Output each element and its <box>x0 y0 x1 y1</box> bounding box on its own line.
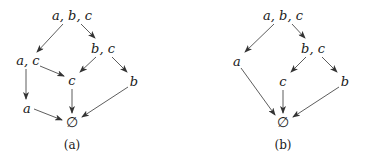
caption-b: (b) <box>274 139 291 151</box>
edge-arrow-b-b-to-empty <box>293 87 339 117</box>
node-a-b: b <box>130 75 138 88</box>
node-b-bc: b, c <box>301 42 325 55</box>
edge-arrow-a-a-to-empty <box>34 109 62 120</box>
edge-arrow-b-abc-to-bc <box>292 24 305 38</box>
node-a-empty: ∅ <box>66 115 78 129</box>
caption-a: (a) <box>64 139 81 151</box>
node-b-abc: a, b, c <box>263 9 303 22</box>
node-b-c: c <box>279 75 286 88</box>
edge-arrow-a-b-to-empty <box>82 87 128 117</box>
edge-arrow-a-abc-to-bc <box>81 24 95 38</box>
node-a-c: c <box>68 74 75 87</box>
edge-arrow-a-abc-to-ac <box>37 24 63 52</box>
node-b-empty: ∅ <box>277 115 289 129</box>
edge-arrow-b-bc-to-b <box>322 57 337 72</box>
edge-arrow-b-abc-to-a <box>245 24 274 52</box>
edge-arrow-b-a-to-empty <box>241 68 275 115</box>
node-b-b: b <box>341 75 349 88</box>
edge-arrow-a-bc-to-c <box>80 57 96 72</box>
node-a-ac: a, c <box>16 54 39 67</box>
node-a-bc: b, c <box>91 42 115 55</box>
node-a-a: a <box>23 102 31 115</box>
node-a-abc: a, b, c <box>52 9 92 22</box>
edge-arrow-a-ac-to-c <box>40 66 64 76</box>
edge-arrow-b-bc-to-c <box>291 57 306 72</box>
edge-arrow-a-bc-to-b <box>112 57 127 72</box>
hasse-diagram-figure: a, b, cb, ca, ccba∅(a) a, b, cb, cacb∅(b… <box>0 0 366 161</box>
node-b-a: a <box>233 55 241 68</box>
edges-layer <box>0 0 366 161</box>
